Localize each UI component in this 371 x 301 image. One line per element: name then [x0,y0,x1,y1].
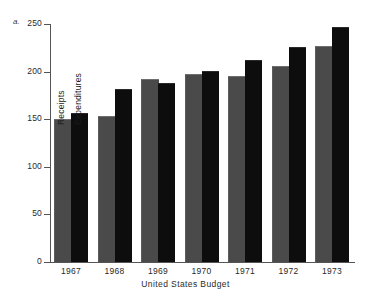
bar-receipts-1970 [185,74,203,262]
y-axis-tick-label: 200 [14,66,42,76]
bar-receipts-1968 [98,116,116,262]
bar-expenditures-1971 [245,60,262,262]
y-axis-tick [44,214,50,215]
bar-expenditures-1968 [115,89,132,262]
y-axis-labels: 050100150200250 [10,0,42,301]
x-axis-tick-label: 1971 [223,266,267,276]
x-axis-tick-label: 1967 [49,266,93,276]
x-axis-title: United States Budget [0,279,371,289]
y-axis-line [50,24,51,263]
y-axis-tick [44,72,50,73]
series-label-expenditures: Expenditures [73,73,83,125]
y-axis-tick-label: 150 [14,113,42,123]
x-axis-tick-label: 1973 [310,266,354,276]
bar-receipts-1967 [54,119,72,262]
x-axis-tick-label: 1970 [180,266,224,276]
x-axis-tick-label: 1968 [93,266,137,276]
bar-expenditures-1967 [71,113,88,262]
bar-expenditures-1972 [289,47,306,262]
y-axis-tick-label: 0 [14,256,42,266]
bar-receipts-1972 [272,66,290,262]
series-label-receipts: Receipts [56,90,66,125]
y-axis-tick [44,24,50,25]
y-axis-tick [44,167,50,168]
y-axis-tick [44,119,50,120]
figure-container: a. 050100150200250 196719681969197019711… [0,0,371,301]
x-axis-tick-label: 1969 [136,266,180,276]
bar-receipts-1969 [141,79,159,262]
bar-receipts-1973 [315,46,333,262]
bar-expenditures-1970 [202,71,219,262]
x-axis-tick-label: 1972 [267,266,311,276]
x-axis-line [50,262,355,263]
bar-expenditures-1969 [158,83,175,262]
y-axis-tick-label: 250 [14,18,42,28]
bar-receipts-1971 [228,76,246,262]
bar-expenditures-1973 [332,27,349,262]
y-axis-tick-label: 50 [14,208,42,218]
y-axis-tick [44,262,50,263]
y-axis-tick-label: 100 [14,161,42,171]
